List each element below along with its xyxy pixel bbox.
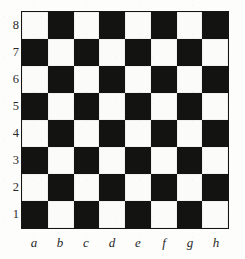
square-b1 bbox=[48, 201, 74, 228]
square-g6 bbox=[177, 66, 203, 93]
square-f2 bbox=[151, 174, 177, 201]
square-b4 bbox=[48, 120, 74, 147]
square-c2 bbox=[74, 174, 100, 201]
square-c8 bbox=[74, 12, 100, 39]
rank-label-1: 1 bbox=[4, 201, 20, 228]
square-d8 bbox=[99, 12, 125, 39]
square-b8 bbox=[48, 12, 74, 39]
square-e4 bbox=[125, 120, 151, 147]
rank-label-5: 5 bbox=[4, 93, 20, 120]
square-a5 bbox=[22, 93, 48, 120]
square-h4 bbox=[202, 120, 228, 147]
square-g5 bbox=[177, 93, 203, 120]
square-g2 bbox=[177, 174, 203, 201]
square-c6 bbox=[74, 66, 100, 93]
rank-label-8: 8 bbox=[4, 12, 20, 39]
square-d6 bbox=[99, 66, 125, 93]
square-d3 bbox=[99, 147, 125, 174]
square-h6 bbox=[202, 66, 228, 93]
square-c7 bbox=[74, 39, 100, 66]
file-label-e: e bbox=[125, 231, 151, 253]
square-a3 bbox=[22, 147, 48, 174]
square-e5 bbox=[125, 93, 151, 120]
rank-label-3: 3 bbox=[4, 147, 20, 174]
file-label-a: a bbox=[21, 231, 47, 253]
square-h1 bbox=[202, 201, 228, 228]
square-b3 bbox=[48, 147, 74, 174]
square-b2 bbox=[48, 174, 74, 201]
file-label-h: h bbox=[203, 231, 229, 253]
square-a1 bbox=[22, 201, 48, 228]
file-label-b: b bbox=[47, 231, 73, 253]
square-d5 bbox=[99, 93, 125, 120]
square-f4 bbox=[151, 120, 177, 147]
square-c3 bbox=[74, 147, 100, 174]
square-b6 bbox=[48, 66, 74, 93]
square-g8 bbox=[177, 12, 203, 39]
rank-label-4: 4 bbox=[4, 120, 20, 147]
square-c4 bbox=[74, 120, 100, 147]
square-c5 bbox=[74, 93, 100, 120]
square-a8 bbox=[22, 12, 48, 39]
square-f5 bbox=[151, 93, 177, 120]
square-e3 bbox=[125, 147, 151, 174]
square-a2 bbox=[22, 174, 48, 201]
square-g1 bbox=[177, 201, 203, 228]
square-h5 bbox=[202, 93, 228, 120]
chessboard-figure: 8 7 6 5 4 3 2 1 a b c d e f g h bbox=[0, 0, 245, 259]
chessboard-grid bbox=[22, 12, 228, 228]
square-a6 bbox=[22, 66, 48, 93]
file-label-d: d bbox=[99, 231, 125, 253]
square-e1 bbox=[125, 201, 151, 228]
square-f8 bbox=[151, 12, 177, 39]
square-h7 bbox=[202, 39, 228, 66]
rank-label-2: 2 bbox=[4, 174, 20, 201]
square-d4 bbox=[99, 120, 125, 147]
square-g4 bbox=[177, 120, 203, 147]
square-d1 bbox=[99, 201, 125, 228]
rank-label-6: 6 bbox=[4, 66, 20, 93]
square-b5 bbox=[48, 93, 74, 120]
square-e8 bbox=[125, 12, 151, 39]
chessboard bbox=[21, 11, 229, 229]
square-c1 bbox=[74, 201, 100, 228]
square-f6 bbox=[151, 66, 177, 93]
rank-label-column: 8 7 6 5 4 3 2 1 bbox=[4, 12, 20, 228]
square-h2 bbox=[202, 174, 228, 201]
square-h8 bbox=[202, 12, 228, 39]
file-label-c: c bbox=[73, 231, 99, 253]
square-a7 bbox=[22, 39, 48, 66]
square-a4 bbox=[22, 120, 48, 147]
file-label-row: a b c d e f g h bbox=[21, 231, 229, 253]
file-label-g: g bbox=[177, 231, 203, 253]
file-label-f: f bbox=[151, 231, 177, 253]
square-d2 bbox=[99, 174, 125, 201]
rank-label-7: 7 bbox=[4, 39, 20, 66]
square-b7 bbox=[48, 39, 74, 66]
square-h3 bbox=[202, 147, 228, 174]
square-g3 bbox=[177, 147, 203, 174]
square-e2 bbox=[125, 174, 151, 201]
square-e6 bbox=[125, 66, 151, 93]
square-f1 bbox=[151, 201, 177, 228]
square-g7 bbox=[177, 39, 203, 66]
square-f3 bbox=[151, 147, 177, 174]
square-e7 bbox=[125, 39, 151, 66]
square-f7 bbox=[151, 39, 177, 66]
square-d7 bbox=[99, 39, 125, 66]
